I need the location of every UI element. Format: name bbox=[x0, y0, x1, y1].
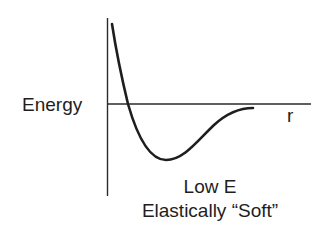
y-axis-label: Energy bbox=[22, 95, 82, 114]
caption-elastically-soft: Elastically “Soft” bbox=[0, 201, 336, 220]
energy-curve bbox=[112, 24, 253, 160]
caption-low-e: Low E bbox=[0, 177, 336, 196]
x-axis-label: r bbox=[287, 106, 293, 125]
